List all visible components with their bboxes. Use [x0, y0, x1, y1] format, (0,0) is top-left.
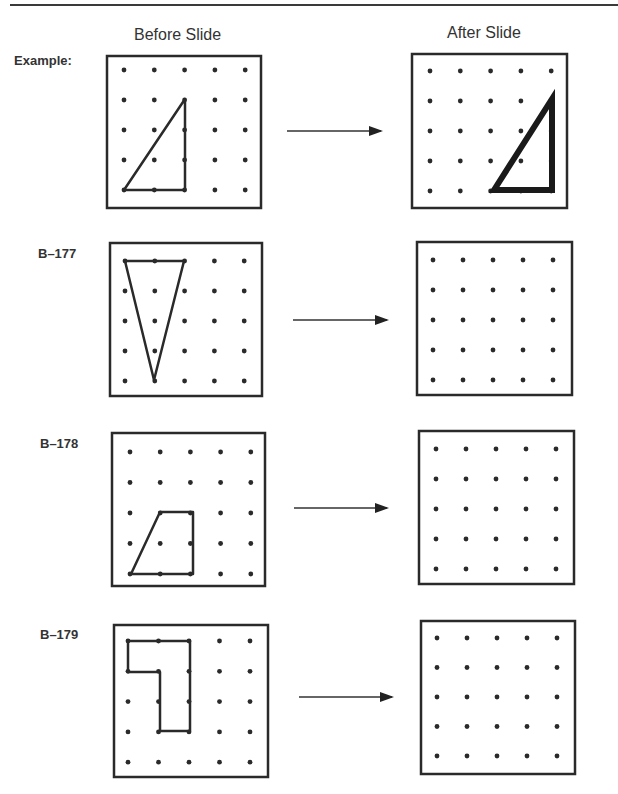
peg-dot [555, 636, 560, 641]
peg-dot [126, 760, 131, 765]
peg-dot [212, 349, 217, 354]
peg-dot [551, 258, 556, 263]
peg-dot [242, 349, 247, 354]
peg-dot [464, 537, 469, 542]
peg-dot [554, 537, 559, 542]
peg-dot [123, 349, 128, 354]
peg-dot [243, 188, 248, 193]
peg-dot [524, 507, 529, 512]
peg-dot [435, 695, 440, 700]
peg-dot [188, 480, 193, 485]
peg-dot [431, 258, 436, 263]
peg-dot [431, 378, 436, 383]
peg-dot [461, 378, 466, 383]
peg-dot [555, 754, 560, 759]
peg-dot [465, 695, 470, 700]
peg-dot [494, 537, 499, 542]
peg-dot [521, 378, 526, 383]
peg-dot [243, 68, 248, 73]
peg-dot [242, 379, 247, 384]
peg-dot [212, 319, 217, 324]
example-before-geoboard [107, 56, 261, 208]
peg-dot [152, 289, 157, 294]
peg-dot [519, 129, 524, 134]
peg-dot [212, 289, 217, 294]
peg-dot [123, 289, 128, 294]
peg-dot [158, 480, 163, 485]
peg-dot [464, 567, 469, 572]
peg-dot [428, 159, 433, 164]
peg-dot [218, 511, 223, 516]
peg-dot [152, 158, 157, 163]
b177-after-geoboard [417, 242, 572, 395]
peg-dot [122, 98, 127, 103]
peg-dot [461, 348, 466, 353]
peg-dot [491, 348, 496, 353]
peg-dot [248, 572, 253, 577]
peg-dot [123, 379, 128, 384]
peg-dot [435, 754, 440, 759]
peg-dot [524, 567, 529, 572]
peg-dot [458, 189, 463, 194]
peg-dot [555, 695, 560, 700]
peg-dot [519, 69, 524, 74]
peg-dot [494, 477, 499, 482]
peg-dot [218, 450, 223, 455]
peg-dot [554, 477, 559, 482]
peg-dot [465, 636, 470, 641]
peg-dot [461, 288, 466, 293]
b179-l-shape [128, 641, 190, 731]
peg-dot [431, 288, 436, 293]
peg-dot [213, 128, 218, 133]
peg-dot [123, 319, 128, 324]
peg-dot [555, 665, 560, 670]
peg-dot [494, 507, 499, 512]
peg-dot [465, 665, 470, 670]
peg-dot [521, 318, 526, 323]
peg-dot [458, 99, 463, 104]
peg-dot [551, 318, 556, 323]
peg-dot [152, 349, 157, 354]
peg-dot [213, 158, 218, 163]
peg-dot [495, 724, 500, 729]
peg-dot [242, 289, 247, 294]
peg-dot [461, 258, 466, 263]
peg-dot [551, 378, 556, 383]
b179-before-geoboard [114, 625, 268, 777]
peg-dot [491, 288, 496, 293]
peg-dot [128, 450, 133, 455]
peg-dot [434, 567, 439, 572]
peg-dot [158, 541, 163, 546]
peg-dot [182, 379, 187, 384]
peg-dot [551, 348, 556, 353]
peg-dot [243, 128, 248, 133]
b178-before-geoboard [112, 433, 265, 586]
peg-dot [434, 447, 439, 452]
peg-dot [218, 480, 223, 485]
peg-dot [242, 319, 247, 324]
peg-dot [435, 636, 440, 641]
peg-dot [218, 572, 223, 577]
peg-dot [182, 289, 187, 294]
peg-dot [243, 98, 248, 103]
peg-dot [521, 288, 526, 293]
geoboard-figures [0, 0, 618, 794]
peg-dot [491, 378, 496, 383]
peg-dot [212, 379, 217, 384]
peg-dot [525, 754, 530, 759]
peg-dot [213, 188, 218, 193]
peg-dot [524, 537, 529, 542]
peg-dot [434, 507, 439, 512]
peg-dot [519, 159, 524, 164]
peg-dot [524, 477, 529, 482]
peg-dot [461, 318, 466, 323]
peg-dot [187, 760, 192, 765]
peg-dot [519, 99, 524, 104]
peg-dot [495, 695, 500, 700]
peg-dot [128, 541, 133, 546]
peg-dot [126, 699, 131, 704]
peg-dot [431, 348, 436, 353]
peg-dot [242, 259, 247, 264]
peg-dot [217, 669, 222, 674]
peg-dot [431, 318, 436, 323]
